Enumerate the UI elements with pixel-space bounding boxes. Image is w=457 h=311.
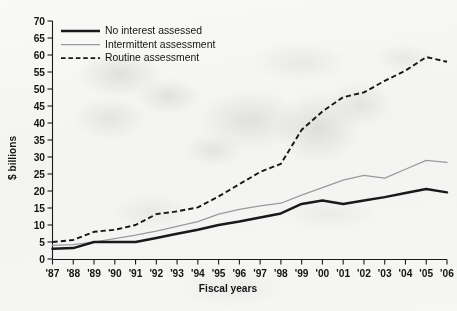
x-tick-label: '01 (336, 268, 350, 279)
y-axis-ticks: 0510152025303540455055606570 (34, 16, 53, 265)
y-tick-label: 35 (34, 135, 46, 146)
x-tick-label: '92 (149, 268, 163, 279)
line-chart: 0510152025303540455055606570 $ billions … (0, 0, 457, 311)
x-tick-label: '87 (46, 268, 60, 279)
x-tick-label: '04 (399, 268, 413, 279)
y-tick-label: 15 (34, 203, 46, 214)
x-tick-label: '02 (357, 268, 371, 279)
y-tick-label: 30 (34, 152, 46, 163)
chart-legend: No interest assessedIntermittent assessm… (61, 25, 215, 63)
y-tick-label: 65 (34, 33, 46, 44)
y-axis: 0510152025303540455055606570 $ billions (7, 16, 53, 265)
y-tick-label: 0 (39, 254, 45, 265)
series-line-routine-assessment (53, 57, 448, 242)
x-tick-label: '94 (191, 268, 205, 279)
y-axis-title: $ billions (7, 136, 18, 180)
y-tick-label: 70 (34, 16, 46, 27)
x-tick-label: '95 (212, 268, 226, 279)
x-tick-label: '00 (316, 268, 330, 279)
x-axis-title: Fiscal years (199, 283, 258, 294)
legend-item: Intermittent assessment (61, 39, 215, 50)
x-tick-label: '90 (108, 268, 122, 279)
legend-item-label: Intermittent assessment (105, 39, 215, 50)
x-tick-label: '03 (378, 268, 392, 279)
series-line-no-interest-assessed (53, 189, 448, 249)
x-tick-label: '89 (87, 268, 101, 279)
legend-item: Routine assessment (61, 52, 199, 63)
x-axis: '87'88'89'90'91'92'93'94'95'96'97'98'99'… (46, 260, 455, 295)
chart-page: 0510152025303540455055606570 $ billions … (0, 0, 457, 311)
x-axis-ticks: '87'88'89'90'91'92'93'94'95'96'97'98'99'… (46, 260, 455, 280)
x-tick-label: '88 (66, 268, 80, 279)
series-group (53, 57, 448, 249)
x-tick-label: '96 (232, 268, 246, 279)
x-tick-label: '05 (419, 268, 433, 279)
legend-item-label: Routine assessment (105, 52, 199, 63)
x-tick-label: '98 (274, 268, 288, 279)
x-tick-label: '99 (295, 268, 309, 279)
series-line-intermittent-assessment (53, 160, 448, 245)
x-tick-label: '06 (440, 268, 454, 279)
x-tick-label: '91 (129, 268, 143, 279)
y-tick-label: 40 (34, 118, 46, 129)
y-tick-label: 25 (34, 169, 46, 180)
y-tick-label: 5 (39, 237, 45, 248)
legend-item: No interest assessed (61, 25, 202, 36)
y-tick-label: 10 (34, 220, 46, 231)
y-tick-label: 45 (34, 101, 46, 112)
x-tick-label: '93 (170, 268, 184, 279)
y-tick-label: 50 (34, 84, 46, 95)
y-tick-label: 60 (34, 50, 46, 61)
x-tick-label: '97 (253, 268, 267, 279)
y-tick-label: 55 (34, 67, 46, 78)
y-tick-label: 20 (34, 186, 46, 197)
legend-item-label: No interest assessed (105, 25, 202, 36)
